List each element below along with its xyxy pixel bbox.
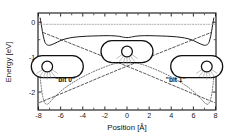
y-tick-label: -2: [29, 88, 35, 97]
figure-canvas: -8-6-4-2024680-1-2 "bit 0""bit 1" Positi…: [0, 0, 230, 133]
x-tick-label: 2: [147, 111, 151, 120]
figure-potential-energy-diagram: -8-6-4-2024680-1-2 "bit 0""bit 1" Positi…: [0, 0, 230, 133]
inset-cage: [171, 56, 223, 78]
inset-atom-circle: [42, 61, 53, 72]
x-tick-label: -6: [57, 111, 63, 120]
bit-zero-label: "bit 0": [55, 76, 75, 83]
x-tick-label: 8: [214, 111, 218, 120]
inset-atom-circle: [122, 46, 133, 57]
x-tick-label: -2: [102, 111, 108, 120]
x-tick-label: -4: [80, 111, 86, 120]
y-tick-label: 0: [31, 18, 35, 27]
inset-atom-circle: [201, 61, 212, 72]
x-tick-label: 4: [169, 111, 173, 120]
bit-one-label: "bit 1": [166, 76, 186, 83]
x-axis-title: Position [Å]: [107, 123, 146, 132]
y-axis-title: Energy [eV]: [4, 42, 13, 83]
inset-delocalized: [101, 41, 153, 65]
x-tick-label: -8: [35, 111, 41, 120]
x-tick-label: 0: [125, 111, 129, 120]
inset-cage: [31, 56, 83, 78]
x-tick-label: 6: [191, 111, 195, 120]
